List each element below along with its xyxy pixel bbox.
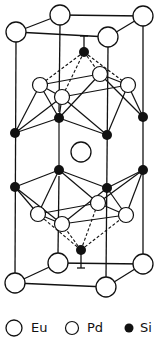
si-atom (10, 128, 20, 138)
eu-atom (133, 6, 153, 26)
eu-atom (48, 253, 68, 273)
crystal-structure-diagram (0, 0, 158, 338)
pd-atom (33, 78, 48, 93)
eu-atom (98, 27, 118, 47)
eu-atom (6, 22, 26, 42)
eu-atom (71, 142, 91, 162)
si-atom (138, 165, 148, 175)
si-atom (79, 47, 89, 57)
pd-atom (91, 196, 106, 211)
si-atom (138, 112, 148, 122)
si-atom (10, 182, 20, 192)
si-atom (76, 245, 86, 255)
pd-atom (55, 217, 70, 232)
eu-atom (133, 254, 153, 274)
si-atom (102, 130, 112, 140)
si-atom (54, 113, 64, 123)
eu-atom (96, 277, 116, 297)
legend: Eu Pd Si (0, 318, 158, 338)
si-atom (54, 165, 64, 175)
pd-atom (93, 67, 108, 82)
pd-atom (55, 90, 70, 105)
pd-atom (119, 208, 134, 223)
eu-legend-icon (6, 320, 22, 336)
legend-label-si: Si (140, 320, 152, 336)
eu-atom (5, 273, 25, 293)
si-atom (102, 183, 112, 193)
legend-label-pd: Pd (87, 320, 103, 336)
legend-label-eu: Eu (31, 320, 47, 336)
pd-legend-icon (66, 322, 79, 335)
eu-atom (50, 5, 70, 25)
pd-atom (121, 78, 136, 93)
si-legend-icon (125, 324, 134, 333)
pd-atom (31, 207, 46, 222)
